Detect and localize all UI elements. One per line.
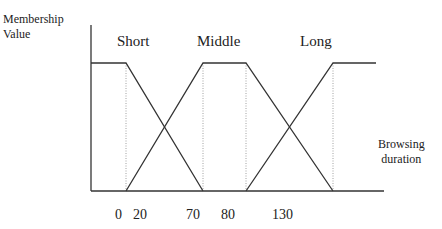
series-middle <box>126 63 333 191</box>
series-long <box>246 63 376 191</box>
tick-0: 0 <box>115 208 122 222</box>
tick-70: 70 <box>186 208 200 222</box>
y-axis-label: Membership Value <box>3 12 64 42</box>
tick-80: 80 <box>221 208 235 222</box>
y-axis-label-line1: Membership <box>3 12 64 27</box>
series-short <box>91 63 203 191</box>
set-label-middle: Middle <box>197 34 240 49</box>
tick-130: 130 <box>272 208 293 222</box>
set-label-short: Short <box>117 34 150 49</box>
x-axis-label-line1: Browsing <box>378 137 425 152</box>
y-axis-label-line2: Value <box>3 27 64 42</box>
set-label-long: Long <box>300 34 332 49</box>
x-axis-label-line2: duration <box>378 152 425 167</box>
x-axis-label: Browsing duration <box>378 137 425 167</box>
tick-20: 20 <box>133 208 147 222</box>
